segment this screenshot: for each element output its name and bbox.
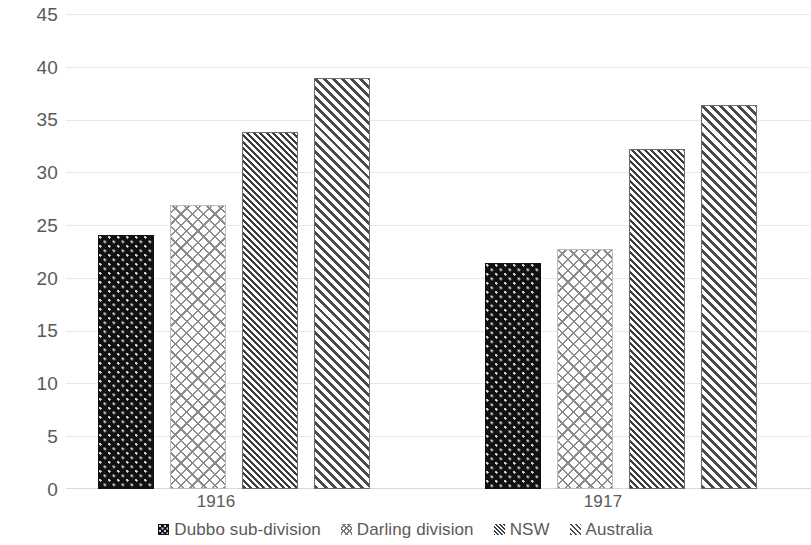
bar-1917-nsw xyxy=(629,149,685,489)
y-tick-label: 45 xyxy=(10,5,58,24)
legend-label: Darling division xyxy=(357,520,474,539)
legend-label: Dubbo sub-division xyxy=(174,520,320,539)
legend: Dubbo sub-division Darling division NSW … xyxy=(0,520,811,539)
plot-area xyxy=(66,14,811,489)
bar-1917-australia xyxy=(701,105,757,489)
legend-label: NSW xyxy=(510,520,550,539)
gridline xyxy=(66,120,811,121)
gridline xyxy=(66,67,811,68)
bar-1916-dubbo-sub-division xyxy=(98,235,154,489)
bar-1916-darling-division xyxy=(170,205,226,489)
bar-chart: 45 40 35 30 25 20 15 10 5 0 1916 1917 xyxy=(0,0,811,545)
gridline xyxy=(66,14,811,15)
y-tick-label: 20 xyxy=(10,269,58,288)
x-tick-label-1917: 1917 xyxy=(553,492,653,512)
gridline xyxy=(66,172,811,173)
legend-swatch-wide-hatch-icon xyxy=(570,524,581,535)
legend-item-nsw: NSW xyxy=(494,520,550,539)
x-tick-label-1916: 1916 xyxy=(166,492,266,512)
y-tick-label: 35 xyxy=(10,110,58,129)
bar-1917-dubbo-sub-division xyxy=(485,263,541,489)
legend-item-darling-division: Darling division xyxy=(341,520,474,539)
y-tick-label: 0 xyxy=(10,480,58,499)
y-tick-label: 15 xyxy=(10,321,58,340)
legend-swatch-dense-hatch-icon xyxy=(494,524,505,535)
y-tick-label: 40 xyxy=(10,58,58,77)
y-tick-label: 10 xyxy=(10,374,58,393)
legend-item-australia: Australia xyxy=(570,520,653,539)
legend-swatch-dots-icon xyxy=(158,524,169,535)
y-tick-label: 5 xyxy=(10,427,58,446)
y-tick-label: 30 xyxy=(10,163,58,182)
legend-item-dubbo-sub-division: Dubbo sub-division xyxy=(158,520,320,539)
bar-1917-darling-division xyxy=(557,249,613,489)
bar-1916-australia xyxy=(314,78,370,489)
legend-swatch-cross-hatch-icon xyxy=(341,524,352,535)
y-axis: 45 40 35 30 25 20 15 10 5 0 xyxy=(0,14,58,489)
y-tick-label: 25 xyxy=(10,216,58,235)
legend-label: Australia xyxy=(586,520,653,539)
bar-1916-nsw xyxy=(242,132,298,489)
